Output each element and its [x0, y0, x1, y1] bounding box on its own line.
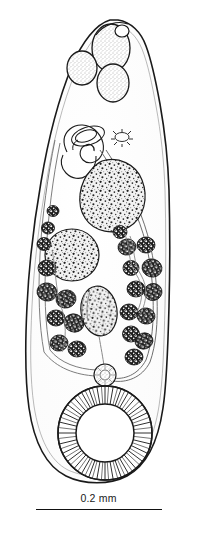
scale-bar: 0.2 mm — [0, 492, 197, 510]
esophagus-bulb — [97, 64, 129, 102]
scale-bar-label: 0.2 mm — [0, 492, 197, 505]
figure-root: 0.2 mm — [0, 0, 197, 535]
trematode-drawing — [0, 0, 197, 535]
pharynx — [67, 51, 97, 85]
scale-bar-line — [36, 509, 162, 510]
